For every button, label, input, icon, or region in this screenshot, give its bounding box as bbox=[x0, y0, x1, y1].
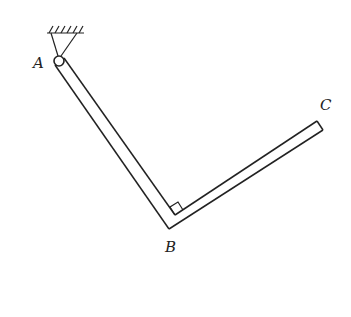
bar-segment-bc bbox=[169, 121, 323, 229]
pin-joint-a bbox=[54, 56, 64, 66]
label-c: C bbox=[320, 96, 332, 114]
label-a: A bbox=[31, 54, 44, 72]
fixed-support bbox=[47, 26, 84, 56]
label-b: B bbox=[164, 238, 176, 256]
right-angle-marker bbox=[170, 202, 183, 215]
bar-segment-ab bbox=[55, 58, 175, 229]
bent-bar-diagram: A B C bbox=[0, 0, 351, 317]
